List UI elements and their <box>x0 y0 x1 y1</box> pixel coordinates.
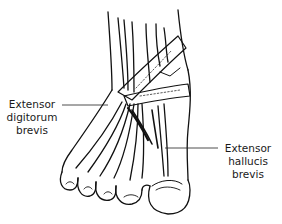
label-line: digitorum <box>2 111 62 124</box>
label-extensor-hallucis-brevis: Extensor hallucis brevis <box>220 142 276 181</box>
label-line: Extensor <box>2 98 62 111</box>
label-line: brevis <box>2 124 62 137</box>
foot-anatomy-diagram: Extensor digitorum brevis Extensor hallu… <box>0 0 282 224</box>
label-extensor-digitorum-brevis: Extensor digitorum brevis <box>2 98 62 137</box>
label-line: Extensor <box>220 142 276 155</box>
leg-outline-left <box>108 12 112 90</box>
label-line: brevis <box>220 168 276 181</box>
label-line: hallucis <box>220 155 276 168</box>
leg-outline-right <box>178 10 188 70</box>
